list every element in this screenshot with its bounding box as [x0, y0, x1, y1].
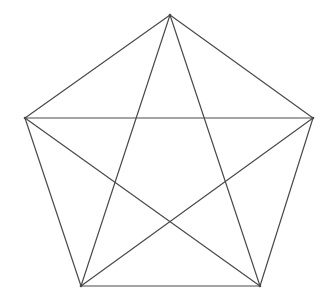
vertex-top [169, 14, 172, 17]
pentagon-side-0 [170, 15, 313, 118]
vertex-bottom-right [259, 285, 262, 288]
vertex-right [312, 117, 315, 120]
pentagon-side-3 [25, 118, 81, 286]
pentagram-diagonal-5 [170, 15, 260, 286]
pentagon-diagram [0, 0, 334, 303]
vertex-left [24, 117, 27, 120]
pentagram-diagonal-7 [81, 118, 313, 286]
vertex-bottom-left [80, 285, 83, 288]
edges-group [24, 14, 315, 288]
pentagram-diagonal-9 [25, 118, 260, 286]
pentagon-side-1 [260, 118, 313, 286]
pentagon-side-4 [25, 15, 170, 118]
pentagram-diagonal-6 [81, 15, 170, 286]
